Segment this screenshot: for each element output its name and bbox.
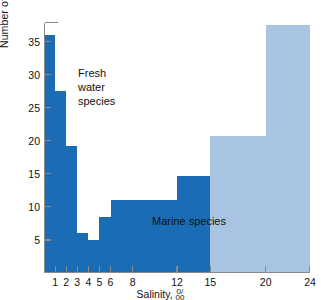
x-axis-tick-label: 8 bbox=[123, 276, 143, 288]
fresh-water-species-label: Fresh water species bbox=[78, 66, 115, 108]
x-axis-tick-label: 6 bbox=[101, 276, 121, 288]
mollusk-salinity-chart: Number of Mollusk species 5101520253035 … bbox=[0, 0, 321, 300]
x-axis-title: Salinity, 0/00 bbox=[0, 288, 321, 300]
y-axis-tick-label: 25 bbox=[16, 102, 40, 114]
plot-svg bbox=[44, 22, 310, 273]
marine-species-label: Marine species bbox=[152, 214, 226, 228]
permille-denominator: 00 bbox=[176, 295, 185, 300]
y-axis-tick-labels: 5101520253035 bbox=[10, 22, 40, 273]
y-axis-title: Number of Mollusk species bbox=[0, 0, 10, 48]
y-axis-tick-label: 5 bbox=[16, 234, 40, 246]
y-axis-tick-label: 30 bbox=[16, 69, 40, 81]
y-axis-tick-label: 20 bbox=[16, 135, 40, 147]
permille-symbol: 0/00 bbox=[176, 289, 185, 300]
x-axis-tick-label: 24 bbox=[300, 276, 320, 288]
x-axis-tick-label: 20 bbox=[256, 276, 276, 288]
plot-area bbox=[44, 22, 310, 273]
x-axis-tick-label: 15 bbox=[200, 276, 220, 288]
x-axis-title-text: Salinity, bbox=[137, 288, 176, 300]
y-axis-tick-label: 10 bbox=[16, 201, 40, 213]
y-axis-tick-label: 35 bbox=[16, 36, 40, 48]
y-axis-tick-label: 15 bbox=[16, 168, 40, 180]
